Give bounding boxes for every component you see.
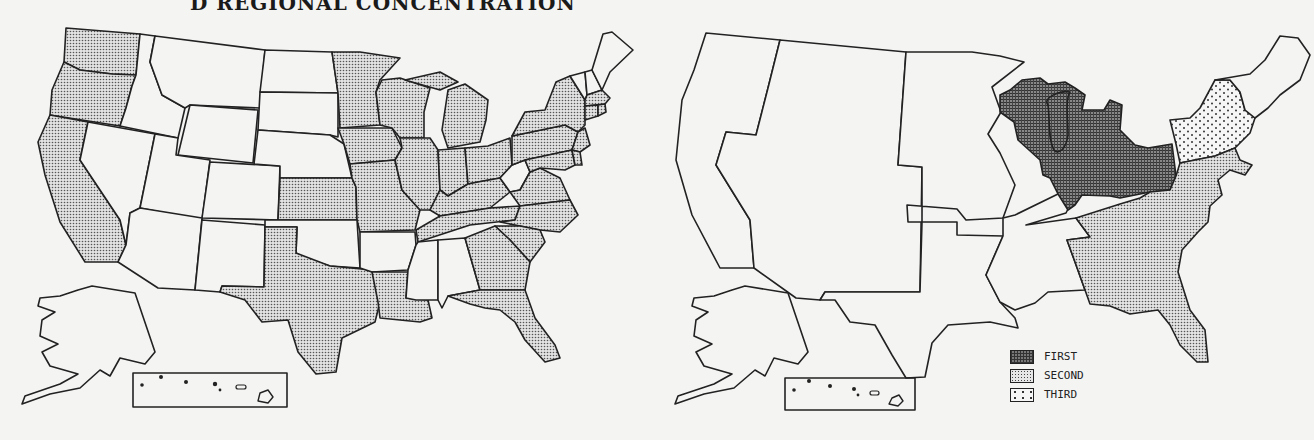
state-AZ — [118, 208, 202, 290]
state-CT — [585, 105, 598, 120]
hawaii-inset — [785, 378, 915, 410]
legend-item-second: SECOND — [1010, 366, 1084, 385]
legend-label: SECOND — [1044, 369, 1084, 382]
state-FL — [448, 290, 560, 362]
state-NY — [512, 76, 585, 136]
state-ND — [260, 50, 338, 93]
second-swatch-icon — [1010, 369, 1034, 383]
state-WY — [178, 105, 258, 163]
state-concentration-map — [0, 0, 660, 440]
state-ME — [592, 32, 633, 90]
state-AR — [360, 232, 416, 272]
state-IA — [338, 128, 402, 164]
region-east-north-central — [1000, 78, 1176, 210]
state-MT — [150, 36, 265, 108]
hawaii-inset — [133, 373, 287, 407]
state-RI — [598, 104, 606, 116]
state-KS — [278, 178, 357, 220]
map-legend: FIRST SECOND THIRD — [1010, 347, 1084, 404]
first-swatch-icon — [1010, 350, 1034, 364]
region-alaska — [675, 286, 808, 404]
state-CO — [202, 162, 280, 220]
state-NM — [195, 220, 265, 292]
legend-item-third: THIRD — [1010, 385, 1084, 404]
legend-label: THIRD — [1044, 388, 1077, 401]
third-swatch-icon — [1010, 388, 1034, 402]
legend-item-first: FIRST — [1010, 347, 1084, 366]
region-concentration-map — [670, 0, 1314, 440]
legend-label: FIRST — [1044, 350, 1077, 363]
state-AK — [22, 286, 155, 404]
